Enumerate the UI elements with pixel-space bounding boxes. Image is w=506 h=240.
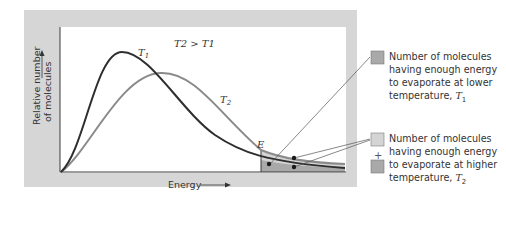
legend-text-higher: Number of molecules having enough energy…	[389, 132, 497, 189]
threshold-label: E	[256, 139, 265, 150]
legend-higher-line4: temperature, T2	[389, 171, 497, 189]
legend-lower-line1: Number of molecules	[389, 50, 497, 63]
condition-label: T2 > T1	[174, 38, 215, 49]
pointer-dot-higher-top	[292, 156, 296, 160]
legend-swatch-higher-base	[371, 160, 384, 173]
y-axis-label-line1: Relative number	[31, 46, 42, 125]
legend-lower-line3: to evaporate at lower	[389, 76, 497, 89]
x-axis-label: Energy	[168, 179, 202, 190]
legend-text-lower: Number of molecules having enough energy…	[389, 50, 497, 107]
legend-swatch-lower	[371, 51, 384, 64]
legend-higher-line3: to evaporate at higher	[389, 158, 497, 171]
legend-higher-line2: having enough energy	[389, 145, 497, 158]
legend-lower-line2: having enough energy	[389, 63, 497, 76]
y-axis-label-line2: of molecules	[42, 62, 53, 122]
legend-plus: +	[374, 150, 382, 161]
legend-lower-line4: temperature, T1	[389, 89, 497, 107]
pointer-dot-higher-bottom	[292, 165, 296, 169]
pointer-dot-lower	[267, 162, 271, 166]
legend-swatch-higher-extra	[371, 133, 384, 146]
legend-higher-line1: Number of molecules	[389, 132, 497, 145]
